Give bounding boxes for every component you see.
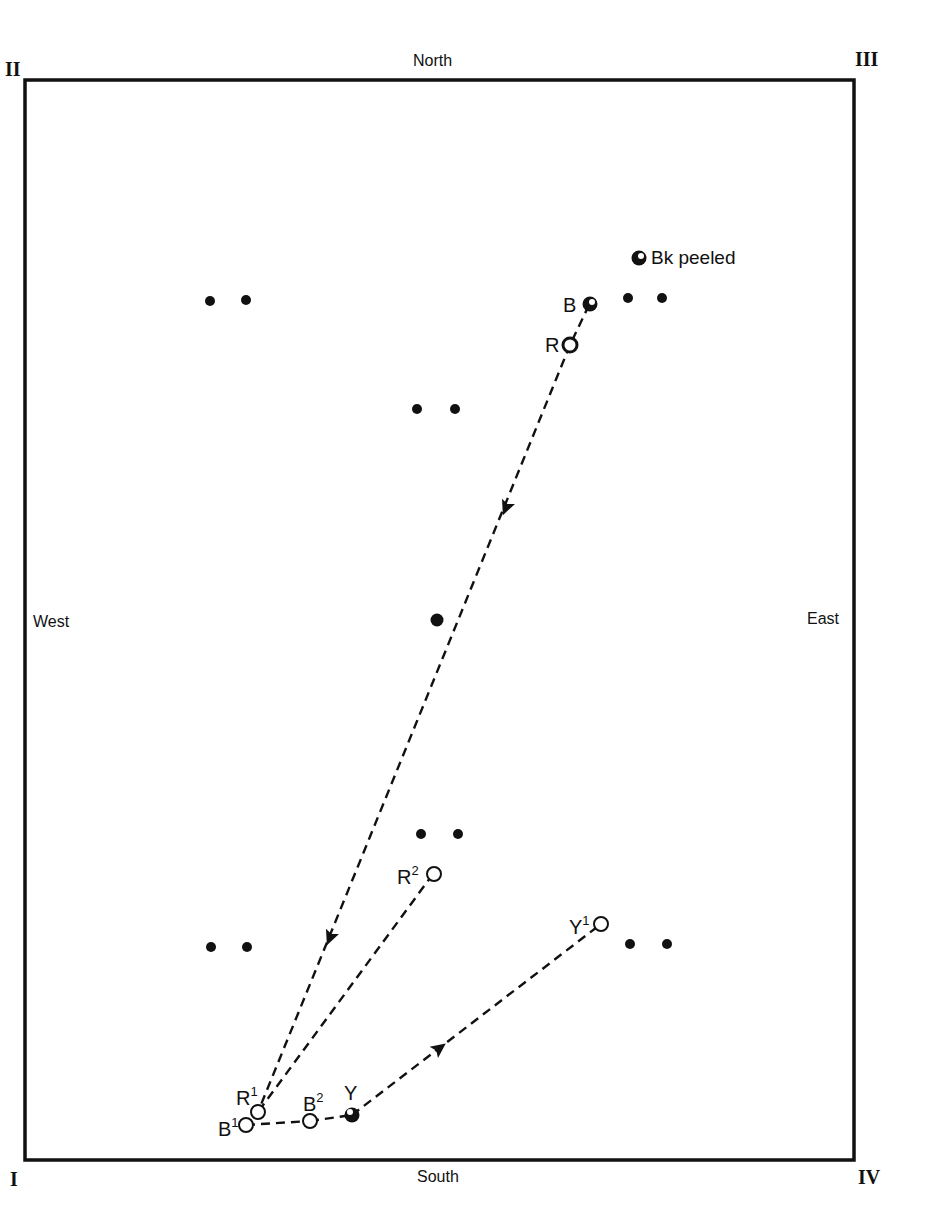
movement-paths	[246, 305, 601, 1125]
peeled-points	[345, 251, 647, 1123]
marker-dots	[205, 293, 672, 952]
corner-label-bottom-left: I	[10, 1168, 18, 1191]
point-label-r: R	[545, 334, 559, 357]
point-label-b: B	[563, 294, 576, 317]
point-label-y1: Y1	[569, 913, 590, 939]
south-label: South	[417, 1168, 459, 1186]
point-label-b2: B2	[303, 1090, 324, 1116]
point-label-y: Y	[344, 1082, 357, 1105]
west-label: West	[33, 613, 69, 631]
point-label-r1: R1	[236, 1084, 258, 1110]
field-map	[0, 0, 927, 1224]
north-label: North	[413, 52, 452, 70]
corner-label-top-right: III	[855, 48, 878, 71]
corner-label-bottom-right: IV	[858, 1166, 880, 1189]
east-label: East	[807, 610, 839, 628]
point-label-r2: R2	[397, 863, 419, 889]
arrow-icons	[320, 499, 515, 1058]
point-label-b1: B1	[218, 1115, 239, 1141]
legend-bk-peeled: Bk peeled	[651, 247, 736, 269]
corner-label-top-left: II	[5, 58, 21, 81]
open-points	[239, 867, 608, 1132]
